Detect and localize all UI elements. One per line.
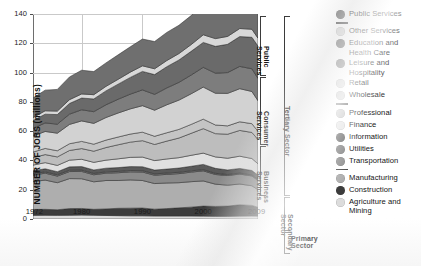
y-tick-label: 60 — [1, 126, 27, 135]
y-tick-label: 80 — [1, 97, 27, 106]
y-tick: 80 — [0, 97, 33, 107]
legend-item[interactable]: Information — [336, 132, 421, 143]
legend-group-divider — [336, 103, 348, 105]
legend-swatch-icon — [336, 79, 345, 88]
legend-label: Agriculture and Mining — [349, 197, 421, 216]
y-tick-mark — [30, 14, 33, 15]
legend-item[interactable]: Agriculture and Mining — [336, 197, 421, 216]
y-axis-label: NUMBER OF JOBS (millions) — [32, 84, 42, 205]
y-tick: 20 — [0, 185, 33, 195]
bracket-label: PrimarySector — [291, 235, 321, 250]
legend-label: Utilities — [349, 144, 374, 154]
legend-item[interactable]: Finance — [336, 120, 421, 131]
legend-swatch-icon — [336, 174, 345, 183]
legend-group-divider — [336, 169, 348, 171]
legend-label: Professional — [349, 108, 391, 118]
y-tick-mark — [30, 43, 33, 44]
y-tick-mark — [30, 73, 33, 74]
legend-label: Public Services — [349, 9, 402, 19]
legend-swatch-icon — [336, 59, 345, 68]
employment-by-industry-figure: 020406080100120140 NUMBER OF JOBS (milli… — [0, 0, 421, 266]
y-tick: 120 — [0, 38, 33, 48]
x-tick-label: 2000 — [195, 207, 212, 216]
y-tick: 100 — [0, 68, 33, 78]
stacked-area-series — [33, 14, 258, 219]
bracket-label: Tertiary Sector — [283, 106, 290, 156]
y-tick-label: 20 — [1, 185, 27, 194]
legend-swatch-icon — [336, 109, 345, 118]
legend-swatch-icon — [336, 121, 345, 130]
legend-swatch-icon — [336, 198, 345, 207]
legend-swatch-icon — [336, 10, 345, 19]
y-tick-label: 40 — [1, 155, 27, 164]
bracket-label: PublicServices — [256, 46, 271, 76]
legend-item[interactable]: Utilities — [336, 144, 421, 155]
legend-item[interactable]: Other Services — [336, 26, 421, 37]
y-tick-label: 0 — [1, 214, 27, 223]
x-tick-label: 1990 — [134, 207, 151, 216]
legend-item[interactable]: Transportation — [336, 156, 421, 167]
legend-item[interactable]: Professional — [336, 108, 421, 119]
legend-swatch-icon — [336, 39, 345, 48]
x-tick-label: 1972 — [26, 207, 43, 216]
legend-swatch-icon — [336, 27, 345, 36]
legend-swatch-icon — [336, 91, 345, 100]
y-tick: 140 — [0, 9, 33, 19]
legend-label: Other Services — [349, 26, 400, 36]
legend-label: Retail — [349, 78, 369, 88]
y-tick-label: 140 — [1, 9, 27, 18]
legend-swatch-icon — [336, 186, 345, 195]
legend-item[interactable]: Construction — [336, 185, 421, 196]
legend-label: Education and Health Care — [349, 38, 421, 57]
y-tick-label: 100 — [1, 68, 27, 77]
y-tick-label: 120 — [1, 38, 27, 47]
legend-item[interactable]: Leisure and Hospitality — [336, 58, 421, 77]
legend-label: Information — [349, 132, 388, 142]
legend-item[interactable]: Retail — [336, 78, 421, 89]
y-tick-mark — [30, 219, 33, 220]
bracket-label: ConsumerServices — [256, 111, 271, 146]
legend-label: Wholesale — [349, 90, 385, 100]
legend: Public ServicesOther ServicesEducation a… — [336, 9, 421, 217]
legend-swatch-icon — [336, 157, 345, 166]
legend-label: Manufacturing — [349, 173, 398, 183]
legend-swatch-icon — [336, 133, 345, 142]
y-tick: 60 — [0, 126, 33, 136]
legend-item[interactable]: Public Services — [336, 9, 421, 20]
legend-swatch-icon — [336, 145, 345, 154]
x-tick-label: 2009 — [248, 207, 265, 216]
legend-item[interactable]: Education and Health Care — [336, 38, 421, 57]
legend-item[interactable]: Manufacturing — [336, 173, 421, 184]
x-tick-label: 1980 — [73, 207, 90, 216]
legend-label: Finance — [349, 120, 376, 130]
legend-group-divider — [336, 22, 348, 24]
legend-label: Transportation — [349, 156, 398, 166]
bracket-label: BusinessServices — [256, 171, 271, 203]
y-tick: 40 — [0, 155, 33, 165]
plot-area: 020406080100120140 NUMBER OF JOBS (milli… — [33, 14, 258, 219]
legend-item[interactable]: Wholesale — [336, 90, 421, 101]
legend-label: Construction — [349, 185, 392, 195]
legend-label: Leisure and Hospitality — [349, 58, 421, 77]
